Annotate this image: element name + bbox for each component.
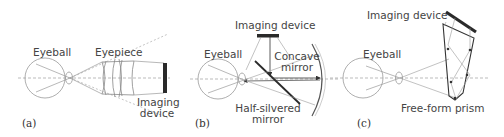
- half-silvered-mirror-label: Half-silvered mirror: [232, 103, 304, 125]
- imaging-device-b: [257, 34, 279, 38]
- imaging-device-c: [446, 12, 476, 32]
- imaging-device-label-c: Imaging device: [367, 10, 448, 21]
- concave-mirror-label: Concave mirror: [272, 51, 322, 73]
- eyeball-label-a: Eyeball: [33, 47, 71, 58]
- optical-configurations-figure: Eyeball Eyepiece Imaging device (a) Imag…: [0, 0, 504, 137]
- eyeball-label-b: Eyeball: [204, 49, 242, 60]
- eyeball-label-c: Eyeball: [363, 49, 401, 60]
- panel-c-graphics: [330, 12, 490, 100]
- caption-b: (b): [195, 117, 210, 129]
- caption-a: (a): [22, 117, 36, 129]
- caption-c: (c): [357, 117, 371, 129]
- free-form-prism-label: Free-form prism: [401, 103, 485, 114]
- imaging-device-label-a: Imaging device: [137, 97, 177, 119]
- imaging-device-label-b: Imaging device: [235, 20, 316, 31]
- free-form-prism: [443, 24, 474, 100]
- eyepiece-label: Eyepiece: [95, 47, 143, 58]
- imaging-device-a: [163, 63, 167, 93]
